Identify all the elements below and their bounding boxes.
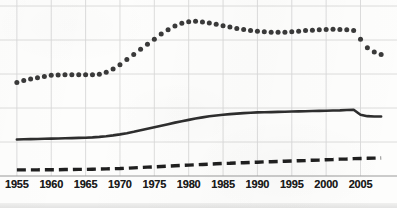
plot-area bbox=[0, 0, 397, 180]
grid-vertical-lines bbox=[17, 0, 361, 176]
x-tick-label-1995: 1995 bbox=[280, 178, 304, 190]
x-tick-label-1990: 1990 bbox=[246, 178, 270, 190]
x-tick-label-1975: 1975 bbox=[142, 178, 166, 190]
series-dotted-line bbox=[14, 19, 383, 85]
x-tick-label-1980: 1980 bbox=[177, 178, 201, 190]
chart-container: 1955196019651970197519801985199019952000… bbox=[0, 0, 397, 208]
x-tick-label-1970: 1970 bbox=[108, 178, 132, 190]
x-tick-label-2000: 2000 bbox=[314, 178, 338, 190]
x-tick-label-1985: 1985 bbox=[211, 178, 235, 190]
scan-bottom-edge bbox=[0, 203, 397, 208]
x-tick-label-1965: 1965 bbox=[74, 178, 98, 190]
x-tick-label-2005: 2005 bbox=[349, 178, 373, 190]
x-tick-label-1960: 1960 bbox=[39, 178, 63, 190]
x-tick-label-1955: 1955 bbox=[5, 178, 29, 190]
chart-svg bbox=[0, 0, 397, 180]
